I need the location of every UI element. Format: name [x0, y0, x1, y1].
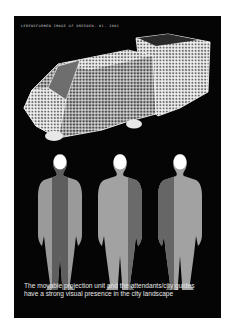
- attendant-figure-3: [150, 144, 210, 294]
- projection-vehicle-illustration: [18, 30, 218, 142]
- caption-line-1: The movable projection unit and the atte…: [24, 282, 214, 290]
- caption-line-2: have a strong visual presence in the cit…: [24, 290, 214, 298]
- caption: The movable projection unit and the atte…: [24, 282, 214, 298]
- image-panel: Lebensformen Image of Dresden. 01. 2001: [14, 16, 221, 318]
- attendant-figure-2: [90, 144, 150, 294]
- header-text: Lebensformen Image of Dresden. 01. 2001: [21, 24, 119, 28]
- attendant-figure-1: [30, 144, 90, 294]
- attendants-illustration: [30, 144, 210, 294]
